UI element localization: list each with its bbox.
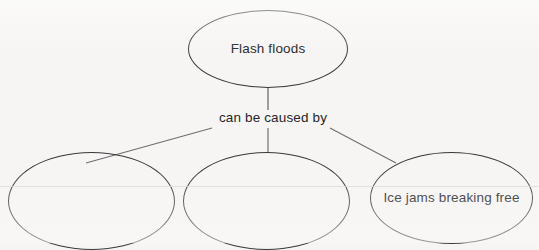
link-label-can-be-caused-by[interactable]: can be caused by	[210, 110, 336, 125]
node-flash-floods-label: Flash floods	[231, 42, 306, 57]
node-ice-jams[interactable]: Ice jams breaking free	[370, 152, 533, 244]
node-blank-middle[interactable]	[183, 152, 350, 250]
node-ice-jams-label: Ice jams breaking free	[383, 191, 519, 206]
node-flash-floods[interactable]: Flash floods	[188, 10, 348, 88]
link-label-can-be-caused-by-text: can be caused by	[219, 110, 327, 125]
connector-label-to-ice-jams	[330, 128, 396, 163]
node-blank-left[interactable]	[8, 152, 175, 250]
